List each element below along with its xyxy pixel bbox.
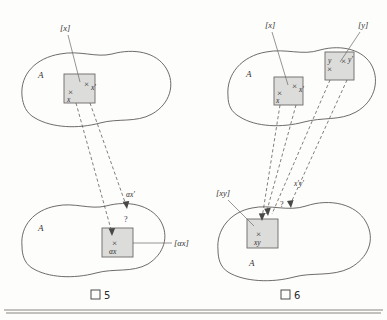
figure-6-box-y-cross: ×	[327, 64, 332, 74]
figure-5-top-set-label: A	[37, 70, 44, 80]
figure-5-bottom-set-outline	[22, 204, 165, 277]
figure-5-top-box-cross-xprime: ×	[84, 79, 89, 89]
figure-6-bracket-label-y: [y]	[358, 20, 368, 30]
figure-5-bracket-label-x: [x]	[60, 23, 70, 33]
figure-5-bracket-label-alphax: [αx]	[174, 238, 189, 248]
figure-5-group: × x × x' [x] A × αx A [αx]	[22, 23, 189, 301]
figure-6-box-xprime-label: x'	[298, 85, 304, 94]
figure-6-top-set-label: A	[245, 69, 252, 79]
figure-5-label-alphaxprime: αx'	[126, 190, 135, 199]
figure-6-box-yprime-label: y'	[347, 55, 353, 64]
figure-5-dash-x-to-alphax	[76, 103, 112, 233]
figure-6-dash-xprime-to-xy	[266, 105, 296, 214]
figure-6-bottom-box-label-xy: xy	[253, 238, 261, 247]
figure-6-bottom-set-outline	[218, 203, 371, 281]
figure-6-box-yprime-cross: ×	[341, 56, 346, 66]
figure-6-caption-number: 6	[294, 290, 300, 301]
figure-6-bottom-set-label: A	[248, 258, 255, 268]
figure-5-dash-xprime-to-alphaxprime	[90, 103, 126, 205]
figure-5-question-mark: ?	[124, 215, 128, 224]
figure-6-bracket-label-xy: [xy]	[216, 188, 230, 198]
figure-5-bottom-set-label: A	[37, 223, 44, 233]
figure-5-caption-number: 5	[104, 290, 110, 301]
figure-6-group: × x × x' y × × y' A [x] [y] × xy	[216, 20, 375, 301]
figure-5-caption-symbol-box	[91, 290, 100, 299]
figures-canvas: × x × x' [x] A × αx A [αx]	[0, 0, 387, 320]
figure-6-label-xprimeyprime: x'y'	[293, 179, 304, 188]
figure-5-top-box-label-x: x	[66, 95, 71, 104]
figure-6-dash-x-to-xy	[262, 105, 280, 218]
figure-6-bracket-label-x: [x]	[265, 20, 275, 30]
figure-6-leader-xy	[228, 200, 254, 226]
figure-5-bottom-box-label-alphax: αx	[109, 247, 117, 256]
figure-6-arrowhead-xprimeyprime	[287, 200, 294, 208]
figure-6-box-x-label: x	[275, 96, 280, 105]
figure-6-caption-symbol-box	[281, 290, 290, 299]
scanned-figure-page: × x × x' [x] A × αx A [αx]	[0, 0, 387, 320]
figure-5-top-box-label-xprime: x'	[90, 83, 96, 92]
figure-5-top-set-outline	[22, 51, 171, 126]
figure-6-box-xprime-cross: ×	[292, 81, 297, 91]
figure-5-arrowhead-alphaxprime	[123, 201, 130, 209]
figure-5-bottom-box	[102, 228, 133, 257]
figure-6-arrowhead-secondary	[264, 208, 271, 216]
figure-6-question-mark: ?	[280, 200, 284, 209]
